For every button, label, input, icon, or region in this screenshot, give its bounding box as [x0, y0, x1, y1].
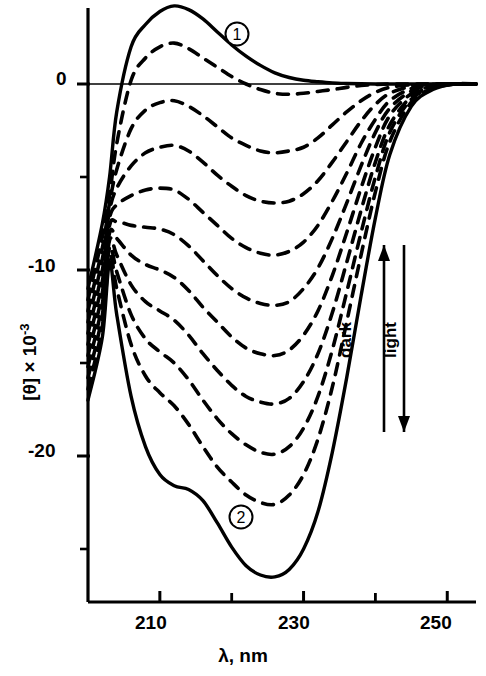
- spectrum-curve-d5: [88, 84, 476, 345]
- curves-group: [88, 6, 476, 577]
- y-axis-title-bracket: [θ]: [19, 378, 40, 401]
- curve-number-markers: 12: [226, 23, 253, 529]
- spectrum-curve-d3: [88, 84, 476, 322]
- x-axis-title-text: λ, nm: [218, 645, 268, 666]
- spectrum-curve-d8: [88, 84, 476, 455]
- curve-marker-1-text: 1: [233, 26, 242, 43]
- cd-spectra-figure: 12 0 -10 -20 210 230 250 λ, nm [θ] × 10-…: [0, 0, 486, 676]
- dark-arrow-head: [378, 245, 390, 261]
- y-tick-label-0: 0: [56, 68, 67, 90]
- dark-direction-label: dark: [336, 311, 356, 369]
- x-tick-label-210: 210: [135, 612, 167, 634]
- spectrum-curve-d9: [88, 84, 476, 505]
- curve-marker-1: 1: [226, 23, 249, 46]
- x-tick-label-230: 230: [278, 612, 310, 634]
- spectrum-curve-d2: [88, 84, 476, 311]
- spectrum-curve-d6: [88, 84, 476, 356]
- x-axis-title: λ, nm: [0, 645, 486, 667]
- light-arrow-head: [398, 416, 410, 432]
- spectrum-curve-2: [88, 84, 476, 578]
- y-axis-title: [θ] × 10-3: [17, 277, 41, 447]
- y-axis-title-multiplier: × 10: [19, 335, 40, 378]
- y-tick-label-minus10: -10: [28, 255, 55, 277]
- spectrum-curve-d1: [88, 43, 476, 300]
- curve-marker-2: 2: [230, 506, 253, 529]
- x-tick-label-250: 250: [420, 612, 452, 634]
- curve-marker-2-text: 2: [237, 509, 246, 526]
- spectrum-curve-d4: [88, 84, 476, 333]
- plot-canvas: 12: [0, 0, 486, 676]
- y-axis-title-exponent: -3: [17, 324, 32, 336]
- spectrum-curve-1: [88, 6, 476, 289]
- spectrum-curve-d7: [88, 84, 476, 404]
- light-direction-label: light: [381, 311, 401, 369]
